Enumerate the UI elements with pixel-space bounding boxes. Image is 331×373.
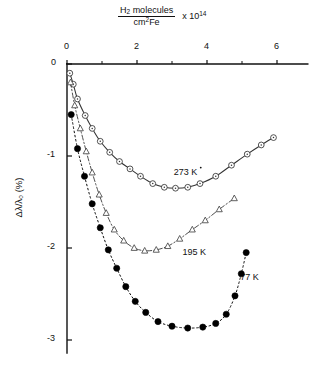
data-point-2-10	[155, 319, 161, 325]
data-point-0-10-center	[152, 183, 154, 185]
data-point-1-1	[72, 102, 78, 108]
data-point-2-5	[105, 247, 111, 253]
data-point-1-3	[83, 148, 89, 154]
data-point-1-6	[103, 210, 109, 216]
data-point-2-17	[238, 271, 244, 277]
data-point-0-15-center	[215, 175, 217, 177]
data-point-1-10	[142, 247, 148, 253]
data-point-0-19-center	[273, 137, 275, 139]
data-point-2-1	[74, 146, 80, 152]
data-point-0-13-center	[187, 187, 189, 189]
data-point-0-12-center	[175, 187, 177, 189]
data-point-1-14	[189, 226, 195, 232]
data-point-1-2	[77, 125, 83, 131]
series-label-273k-degree-mark	[200, 167, 202, 169]
figure-container: H2 molecules cm2Fe x 1014 Δλ/λ₀ (%) 0 2 …	[0, 0, 331, 373]
data-point-2-14	[213, 320, 219, 326]
data-point-0-3-center	[84, 115, 86, 117]
data-point-2-16	[232, 293, 238, 299]
series-line-2	[71, 115, 246, 328]
data-point-0-0-center	[69, 72, 71, 74]
data-point-2-3	[89, 201, 95, 207]
data-point-2-13	[200, 324, 206, 330]
data-point-2-6	[114, 265, 120, 271]
data-point-0-7-center	[119, 161, 121, 163]
data-point-2-12	[185, 325, 191, 331]
data-point-0-11-center	[164, 187, 166, 189]
data-point-2-18	[243, 250, 249, 256]
series-273-k	[67, 70, 277, 191]
data-point-2-8	[132, 298, 138, 304]
data-point-1-12	[165, 243, 171, 249]
data-point-1-4	[89, 169, 95, 175]
data-point-0-18-center	[261, 144, 263, 146]
series-77-k	[68, 112, 249, 332]
data-point-1-5	[96, 191, 102, 197]
data-point-2-7	[123, 284, 129, 290]
data-point-0-2-center	[77, 98, 79, 100]
data-point-2-0	[68, 112, 74, 118]
series-line-1	[71, 82, 235, 250]
data-point-2-9	[143, 309, 149, 315]
data-point-0-5-center	[100, 141, 102, 143]
series-195-k	[67, 79, 237, 253]
data-point-0-6-center	[109, 152, 111, 154]
data-point-0-16-center	[231, 164, 233, 166]
data-point-0-8-center	[129, 168, 131, 170]
plot-area	[0, 0, 331, 373]
data-point-2-4	[97, 225, 103, 231]
data-point-1-9	[131, 245, 137, 251]
data-point-2-11	[169, 323, 175, 329]
data-point-1-13	[177, 236, 183, 242]
data-point-1-16	[216, 206, 222, 212]
data-point-2-2	[81, 173, 87, 179]
data-point-1-17	[231, 195, 237, 201]
data-point-0-4-center	[91, 128, 93, 130]
data-point-0-9-center	[140, 175, 142, 177]
data-point-1-15	[202, 217, 208, 223]
data-point-0-17-center	[247, 153, 249, 155]
data-point-0-14-center	[199, 183, 201, 185]
data-point-1-7	[111, 226, 117, 232]
data-point-2-15	[223, 311, 229, 317]
series-line-0	[70, 73, 274, 188]
